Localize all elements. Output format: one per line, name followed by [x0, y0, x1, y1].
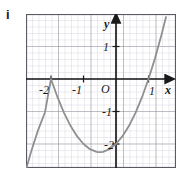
coordinate-plot: y x O -2 -1 1 1 -1 -2: [26, 14, 176, 168]
y-tick-label--1: -1: [102, 105, 112, 119]
graph-figure: i: [0, 0, 186, 174]
y-tick-label--2: -2: [104, 138, 114, 152]
x-tick-label--1: -1: [72, 83, 82, 97]
x-tick-label--2: -2: [39, 83, 49, 97]
part-label: i: [6, 8, 10, 21]
x-tick-label-1: 1: [149, 84, 155, 98]
x-axis-label: x: [164, 83, 171, 97]
y-axis-label: y: [102, 17, 110, 31]
y-tick-label-1: 1: [103, 40, 109, 54]
origin-label: O: [101, 82, 110, 96]
plot-svg: y x O -2 -1 1 1 -1 -2: [26, 14, 176, 168]
